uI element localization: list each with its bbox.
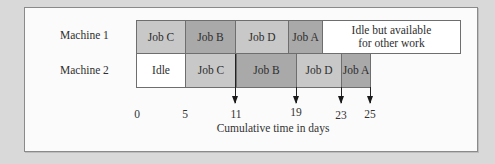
block-label: Job C <box>148 31 175 44</box>
arrow-down-icon-23 <box>341 87 342 103</box>
tick-25: 25 <box>364 108 376 120</box>
machine-1-job-d: Job D <box>235 20 289 54</box>
block-label-line-1: Idle but available <box>352 24 432 37</box>
block-label: Job C <box>198 64 225 77</box>
row-label-machine-2: Machine 2 <box>60 64 109 76</box>
block-label: Job B <box>253 64 280 77</box>
tick-23: 23 <box>335 109 347 121</box>
machine-2-idle: Idle <box>136 53 186 88</box>
row-label-machine-1: Machine 1 <box>60 29 109 41</box>
block-label: Job B <box>197 31 224 44</box>
machine-1-job-b: Job B <box>185 20 236 54</box>
x-axis-label: Cumulative time in days <box>217 122 330 134</box>
block-label: Job A <box>292 31 319 44</box>
machine-2-job-a: Job A <box>341 53 371 88</box>
block-label-line-2: for other work <box>358 37 424 50</box>
tick-11: 11 <box>230 108 241 120</box>
block-label: Job D <box>305 64 332 77</box>
block-label: Job A <box>343 64 370 77</box>
tick-19: 19 <box>290 106 302 118</box>
tick-5: 5 <box>182 108 188 120</box>
block-label: Idle <box>152 64 170 77</box>
arrow-down-icon-11 <box>235 54 236 103</box>
machine-2-job-b: Job B <box>236 53 297 88</box>
machine-1-idle-available: Idle but available for other work <box>322 20 461 54</box>
machine-1-job-a: Job A <box>288 20 323 54</box>
arrow-down-icon-25 <box>370 87 371 103</box>
machine-1-job-c: Job C <box>136 20 186 54</box>
machine-2-job-c: Job C <box>185 53 237 88</box>
machine-2-job-d: Job D <box>296 53 342 88</box>
tick-0: 0 <box>134 108 140 120</box>
block-label: Job D <box>248 31 275 44</box>
arrow-down-icon-19 <box>296 87 297 103</box>
